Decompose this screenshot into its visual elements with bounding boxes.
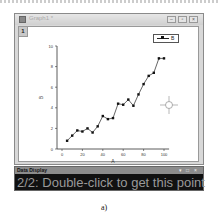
data-display-title: Data Display [17,167,47,174]
data-point-marker [163,57,165,59]
data-point-marker [107,118,109,120]
x-tick-label: 0 [61,152,64,157]
data-point-marker [102,115,104,117]
y-tick-label: 6 [51,85,54,90]
x-tick-label: 60 [121,152,126,157]
x-axis-label: A [111,158,115,163]
data-display-titlebar[interactable]: Data Display ▾ □ × [15,167,203,174]
window-title: Graph1 * [29,15,53,21]
graph-canvas[interactable]: 1 B 0246810020406080100AB [18,26,199,162]
x-tick-label: 80 [141,152,146,157]
restore-button[interactable]: ▫ [178,16,187,23]
data-point-marker [117,102,119,104]
data-point-marker [91,131,93,133]
data-point-marker [148,75,150,77]
close-icon[interactable]: × [194,167,197,174]
close-button[interactable]: × [189,16,198,23]
x-tick-label: 100 [161,152,168,157]
series-line [67,58,164,140]
data-point-marker [81,130,83,132]
data-point-marker [112,117,114,119]
data-point-marker [127,98,129,100]
data-point-marker [71,134,73,136]
top-border-artifact [0,0,220,3]
y-axis-label: B [38,95,44,99]
pin-icon[interactable]: ▾ [179,167,182,174]
window-titlebar[interactable]: Graph1 * – ▫ × [15,14,203,25]
y-tick-label: 0 [51,147,54,152]
crosshair-cursor-icon [166,102,173,109]
data-point-marker [97,125,99,127]
y-tick-label: 10 [49,44,54,49]
data-point-marker [153,72,155,74]
minimize-button[interactable]: – [167,16,176,23]
figure-caption: a) [101,203,107,212]
data-point-marker [66,140,68,142]
restore-icon[interactable]: □ [186,167,189,174]
x-tick-label: 20 [80,152,85,157]
data-point-marker [132,105,134,107]
y-tick-label: 4 [51,105,54,110]
x-tick-label: 40 [101,152,106,157]
y-tick-label: 8 [51,64,54,69]
data-point-marker [142,83,144,85]
data-point-marker [122,104,124,106]
y-tick-label: 2 [51,126,54,131]
data-display-panel: Data Display ▾ □ × 2/2: Double-click to … [14,166,204,191]
data-point-marker [86,127,88,129]
line-plot[interactable]: 0246810020406080100AB [19,27,200,163]
graph-app-icon [19,16,26,23]
data-point-marker [158,57,160,59]
data-display-message: 2/2: Double-click to get this point [17,174,205,191]
graph-window[interactable]: Graph1 * – ▫ × 1 B 0246810020406080100AB [14,13,204,165]
data-point-marker [76,129,78,131]
data-point-marker [137,93,139,95]
